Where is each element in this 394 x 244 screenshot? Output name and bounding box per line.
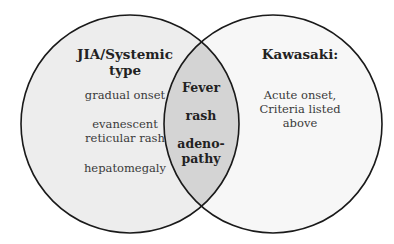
left-item-rash-line2: reticular rash bbox=[55, 131, 195, 145]
overlap-items: Fever rash adeno- pathy bbox=[176, 80, 226, 166]
right-text-line1: Acute onset, bbox=[240, 88, 360, 102]
overlap-item-fever: Fever bbox=[176, 80, 226, 95]
overlap-item-adeno: adeno- bbox=[176, 136, 226, 151]
overlap-item-rash: rash bbox=[176, 108, 226, 123]
left-item-gradual-onset: gradual onset bbox=[55, 88, 195, 102]
overlap-item-pathy: pathy bbox=[176, 151, 226, 166]
left-item-rash-line1: evanescent bbox=[55, 117, 195, 131]
left-item-hepatomegaly: hepatomegaly bbox=[55, 161, 195, 175]
left-title-line2: type bbox=[60, 62, 190, 78]
right-set-text: Acute onset, Criteria listed above bbox=[240, 88, 360, 130]
left-set-title: JIA/Systemic type bbox=[60, 46, 190, 78]
left-title-line1: JIA/Systemic bbox=[60, 46, 190, 62]
right-set-title: Kawasaki: bbox=[240, 46, 360, 62]
left-item-rash: evanescent reticular rash bbox=[55, 117, 195, 145]
right-text-line3: above bbox=[240, 116, 360, 130]
right-text-line2: Criteria listed bbox=[240, 102, 360, 116]
